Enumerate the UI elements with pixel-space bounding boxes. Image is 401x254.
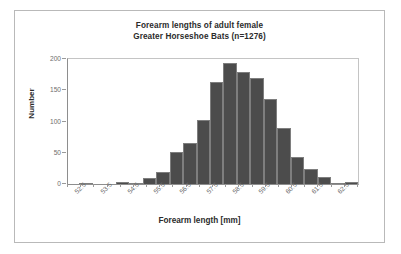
y-axis-tick-label: 150 [50, 86, 61, 93]
x-axis-title: Forearm length [mm] [15, 216, 384, 225]
y-axis-tick-mark [62, 152, 66, 153]
histogram-bars [68, 59, 358, 184]
histogram-bar [210, 82, 223, 184]
y-axis-tick-label: 0 [57, 180, 61, 187]
histogram-bar [223, 63, 236, 184]
y-axis-tick-label: 200 [50, 55, 61, 62]
histogram-bar [183, 143, 196, 184]
figure-frame: Forearm lengths of adult female Greater … [14, 10, 385, 243]
plot-area [67, 58, 359, 185]
y-axis-tick-mark [62, 183, 66, 184]
y-axis-tick-label: 50 [54, 148, 61, 155]
histogram-bar [304, 169, 317, 184]
histogram-bar [250, 78, 263, 184]
y-axis-tick-mark [62, 89, 66, 90]
y-axis-tick-mark [62, 58, 66, 59]
chart-title-line-2: Greater Horseshoe Bats (n=1276) [15, 31, 384, 42]
chart-title-line-1: Forearm lengths of adult female [15, 20, 384, 31]
histogram-bar [170, 152, 183, 184]
y-axis-title: Number [27, 74, 36, 134]
x-axis-tick-labels: 52.553.554.555.556.557.558.559.560.561.5… [67, 187, 357, 217]
histogram-bar [277, 128, 290, 184]
chart-title: Forearm lengths of adult female Greater … [15, 20, 384, 42]
histogram-bar [237, 72, 250, 184]
y-axis-tick-labels: 050100150200 [37, 58, 61, 183]
y-axis-tick-mark [62, 121, 66, 122]
y-axis-tick-label: 100 [50, 117, 61, 124]
x-axis-tick-mark [357, 184, 358, 187]
histogram-bar [264, 99, 277, 184]
histogram-bar [197, 120, 210, 184]
